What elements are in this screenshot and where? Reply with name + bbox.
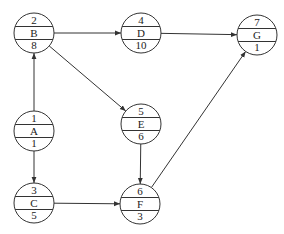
node-C: 3C5 [14, 183, 54, 223]
node-number: 6 [137, 185, 143, 197]
node-name: F [137, 198, 143, 210]
node-B: 2B8 [14, 13, 54, 53]
node-name: E [138, 118, 145, 130]
edge-D-G [161, 33, 237, 34]
network-diagram: 1A12B83C54D105E66F37G1 [0, 0, 284, 234]
node-name: G [253, 29, 261, 41]
node-G: 7G1 [237, 15, 277, 55]
node-F: 6F3 [120, 184, 160, 224]
node-duration: 10 [136, 39, 148, 51]
node-duration: 6 [138, 130, 144, 142]
edge-E-F [140, 144, 141, 184]
node-number: 4 [138, 14, 144, 26]
node-A: 1A1 [14, 111, 54, 151]
node-name: B [30, 27, 37, 39]
node-number: 2 [31, 14, 37, 26]
edge-C-F [54, 203, 120, 204]
node-D: 4D10 [121, 13, 161, 53]
node-duration: 5 [31, 209, 37, 221]
nodes-layer: 1A12B83C54D105E66F37G1 [14, 13, 277, 224]
node-name: D [137, 27, 145, 39]
node-number: 1 [31, 112, 37, 124]
edge-F-G [151, 51, 245, 187]
node-duration: 8 [31, 39, 37, 51]
node-E: 5E6 [121, 104, 161, 144]
node-name: C [30, 197, 37, 209]
node-number: 7 [254, 16, 260, 28]
node-duration: 1 [31, 137, 37, 149]
node-number: 5 [138, 105, 144, 117]
node-number: 3 [31, 184, 37, 196]
node-duration: 1 [254, 41, 260, 53]
edge-B-E [49, 46, 126, 111]
node-name: A [30, 125, 38, 137]
node-duration: 3 [137, 210, 143, 222]
